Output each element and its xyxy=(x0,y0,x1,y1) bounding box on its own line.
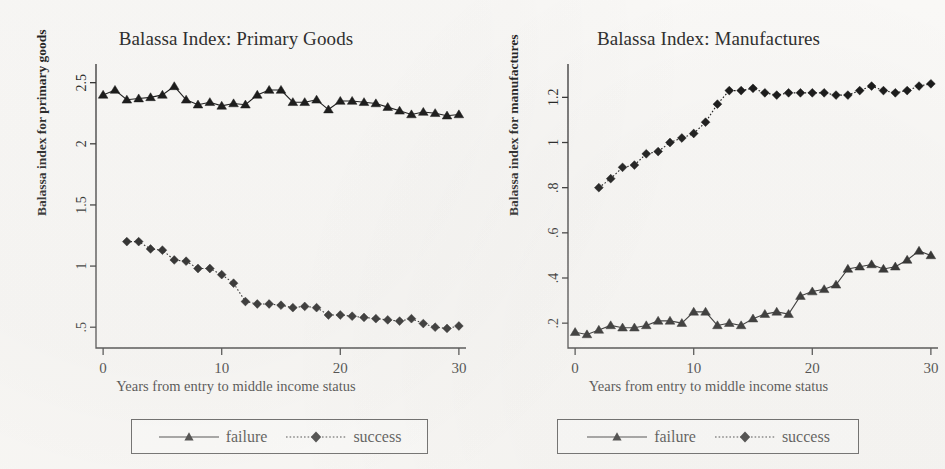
data-point-diamond xyxy=(348,312,357,321)
y-tick-label: .4 xyxy=(546,273,561,284)
legend-swatch-failure-icon xyxy=(158,429,220,445)
data-point-diamond xyxy=(158,246,167,255)
data-point-triangle xyxy=(653,316,663,324)
data-point-triangle xyxy=(701,307,711,315)
data-point-diamond xyxy=(122,237,131,246)
series-line-success xyxy=(127,242,459,329)
y-tick-label: .6 xyxy=(546,228,561,239)
plot-area-primary-goods: .511.522.50102030 xyxy=(0,0,472,400)
data-point-diamond xyxy=(360,313,369,322)
data-point-diamond xyxy=(443,324,452,333)
y-tick-label: .2 xyxy=(546,318,561,329)
data-point-triangle xyxy=(641,321,651,329)
y-tick-label: 1 xyxy=(74,263,89,270)
x-axis-title-manufactures: Years from entry to middle income status xyxy=(472,378,945,395)
data-point-diamond xyxy=(796,88,805,97)
data-point-diamond xyxy=(903,86,912,95)
data-point-triangle xyxy=(772,307,782,315)
data-point-triangle xyxy=(665,316,675,324)
data-point-diamond xyxy=(915,82,924,91)
panel-primary-goods: Balassa Index: Primary Goods Balassa ind… xyxy=(0,0,472,469)
data-point-triangle xyxy=(594,325,604,333)
data-point-diamond xyxy=(926,79,935,88)
y-tick-label: 1 xyxy=(546,139,561,146)
x-tick-label: 10 xyxy=(686,360,701,376)
legend-label-success: success xyxy=(782,428,830,446)
data-point-diamond xyxy=(772,91,781,100)
y-tick-label: .8 xyxy=(546,182,561,193)
data-point-triangle xyxy=(796,291,806,299)
legend-swatch-failure-icon xyxy=(586,429,648,445)
data-point-diamond xyxy=(737,86,746,95)
legend-label-success: success xyxy=(353,428,401,446)
data-point-diamond xyxy=(666,138,675,147)
data-point-triangle xyxy=(169,82,179,90)
legend-swatch-success-icon xyxy=(714,429,776,445)
data-point-diamond xyxy=(820,88,829,97)
data-point-diamond xyxy=(891,88,900,97)
data-point-diamond xyxy=(312,303,321,312)
data-point-diamond xyxy=(843,91,852,100)
data-point-diamond xyxy=(170,256,179,265)
data-point-triangle xyxy=(454,110,464,118)
data-point-diamond xyxy=(146,245,155,254)
x-tick-label: 0 xyxy=(571,360,579,376)
legend-entry-success[interactable]: success xyxy=(714,428,830,446)
x-tick-label: 0 xyxy=(99,360,107,376)
data-point-diamond xyxy=(407,314,416,323)
data-point-diamond xyxy=(371,314,380,323)
data-point-triangle xyxy=(110,85,120,93)
data-point-triangle xyxy=(689,307,699,315)
legend-entry-failure[interactable]: failure xyxy=(158,428,268,446)
data-point-diamond xyxy=(760,88,769,97)
data-point-triangle xyxy=(229,99,239,107)
x-tick-label: 30 xyxy=(451,360,466,376)
legend-entry-success[interactable]: success xyxy=(285,428,401,446)
data-point-diamond xyxy=(867,82,876,91)
data-point-diamond xyxy=(241,297,250,306)
data-point-diamond xyxy=(134,237,143,246)
data-point-diamond xyxy=(194,264,203,273)
data-point-diamond xyxy=(419,319,428,328)
data-point-diamond xyxy=(618,163,627,172)
data-point-diamond xyxy=(879,86,888,95)
series-line-success xyxy=(599,84,931,188)
data-point-diamond xyxy=(182,257,191,266)
data-point-triangle xyxy=(902,255,912,263)
x-axis-title-primary-goods: Years from entry to middle income status xyxy=(0,378,472,395)
plot-area-manufactures: .2.4.6.811.20102030 xyxy=(472,0,945,400)
legend-label-failure: failure xyxy=(654,428,696,446)
data-point-diamond xyxy=(253,300,262,309)
data-point-diamond xyxy=(855,86,864,95)
data-point-triangle xyxy=(335,96,345,104)
figure-canvas: Balassa Index: Primary Goods Balassa ind… xyxy=(0,0,945,469)
data-point-diamond xyxy=(383,315,392,324)
data-point-diamond xyxy=(784,88,793,97)
data-point-triangle xyxy=(724,319,734,327)
data-point-diamond xyxy=(300,302,309,311)
x-tick-label: 10 xyxy=(214,360,229,376)
data-point-diamond xyxy=(324,311,333,320)
data-point-triangle xyxy=(276,85,286,93)
data-point-diamond xyxy=(594,183,603,192)
data-point-triangle xyxy=(418,107,428,115)
x-tick-label: 20 xyxy=(805,360,820,376)
data-point-diamond xyxy=(701,118,710,127)
y-tick-label: 2.5 xyxy=(74,74,89,92)
x-tick-label: 20 xyxy=(333,360,348,376)
data-point-diamond xyxy=(395,317,404,326)
legend-entry-failure[interactable]: failure xyxy=(586,428,696,446)
data-point-diamond xyxy=(277,301,286,310)
data-point-diamond xyxy=(288,303,297,312)
data-point-triangle xyxy=(890,262,900,270)
data-point-triangle xyxy=(98,90,108,98)
panel-container: Balassa Index: Primary Goods Balassa ind… xyxy=(0,0,945,469)
data-point-triangle xyxy=(606,321,616,329)
data-point-triangle xyxy=(819,285,829,293)
x-tick-label: 30 xyxy=(923,360,938,376)
y-tick-label: 1.2 xyxy=(546,89,561,107)
data-point-diamond xyxy=(205,264,214,273)
y-tick-label: 1.5 xyxy=(74,196,89,214)
data-point-triangle xyxy=(926,251,936,259)
data-point-diamond xyxy=(336,311,345,320)
